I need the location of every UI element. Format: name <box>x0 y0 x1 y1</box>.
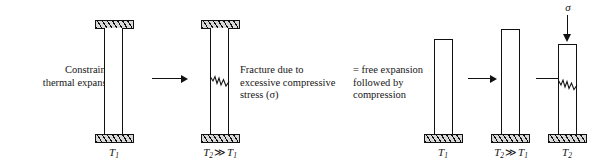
bar-stage4 <box>501 29 520 135</box>
temp-subscript-right-stage2: 1 <box>233 151 237 160</box>
arrow-head <box>181 75 188 83</box>
flow-arrow-2 <box>468 74 498 83</box>
relation-symbol-stage4: ≫ <box>504 146 518 158</box>
stress-symbol-label: σ <box>557 1 579 13</box>
applied-load-arrow <box>563 15 572 42</box>
relation-symbol-stage2: ≫ <box>213 146 227 158</box>
temp-subscript-right-stage4: 1 <box>524 151 528 160</box>
load-arrow-head <box>563 34 571 42</box>
flow-arrow-1 <box>152 74 188 83</box>
bottom-support-hatch-stage2 <box>201 134 240 143</box>
arrow-shaft <box>152 78 182 79</box>
temperature-label-stage3: T1 <box>417 146 469 160</box>
arrow-shaft <box>536 78 559 79</box>
load-arrow-shaft <box>567 15 568 35</box>
arrow-head <box>490 75 497 83</box>
temp-subscript-stage3: 1 <box>444 151 448 160</box>
temperature-label-stage1: T1 <box>88 146 140 160</box>
arrow-shaft <box>468 78 491 79</box>
bottom-support-hatch-stage1 <box>95 134 134 143</box>
ground-hatch-stage3 <box>424 134 463 143</box>
bar-stage1 <box>104 28 123 135</box>
caption-fracture-due-to-compressive-stress: Fracture due to excessive compressive st… <box>240 64 352 102</box>
ground-hatch-stage5 <box>548 134 587 143</box>
temperature-label-stage4: T2≫T1 <box>479 146 543 160</box>
fracture-crack-stage5 <box>558 76 578 94</box>
thermal-stress-figure: Constraint of thermal expansion T1 T2≫T1… <box>0 0 595 165</box>
caption-free-expansion-followed-by-compression: = free expansion followed by compression <box>353 64 445 102</box>
temperature-label-stage5: T2 <box>541 146 593 160</box>
ground-hatch-stage4 <box>491 134 530 143</box>
temp-subscript-stage5: 2 <box>568 151 572 160</box>
bar-stage3 <box>434 39 453 135</box>
fracture-crack-stage2 <box>210 72 230 90</box>
temperature-label-stage2: T2≫T1 <box>188 146 252 160</box>
temp-subscript-stage1: 1 <box>115 151 119 160</box>
